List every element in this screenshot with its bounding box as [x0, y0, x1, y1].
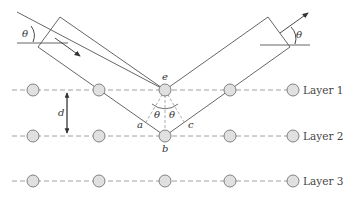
theta-right-label: θ — [169, 109, 175, 120]
reflected-beam — [165, 13, 310, 136]
atoms — [27, 84, 299, 187]
layer-1-label: Layer 1 — [303, 84, 343, 96]
layer-3-label: Layer 3 — [303, 175, 343, 187]
incident-beam — [17, 12, 165, 136]
point-b-label: b — [162, 143, 168, 154]
theta-left-label: θ — [154, 109, 160, 120]
reflected-angle-label: θ — [296, 29, 302, 40]
spacing-label: d — [58, 107, 64, 118]
point-e-label: e — [162, 71, 168, 82]
point-c-label: c — [188, 119, 194, 130]
incident-angle-label: θ — [22, 28, 28, 39]
bragg-diagram: θ θ θ θ d e b a c Layer 1 Layer 2 Layer … — [0, 0, 357, 198]
layer-2-label: Layer 2 — [303, 130, 343, 142]
point-a-label: a — [137, 119, 143, 130]
layer-lines — [12, 90, 300, 181]
